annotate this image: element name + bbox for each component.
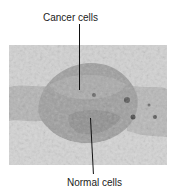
cancer-pointer-line bbox=[79, 24, 80, 90]
tissue-micrograph bbox=[9, 45, 167, 165]
tissue-image bbox=[9, 45, 167, 165]
cancer-cells-label: Cancer cells bbox=[43, 12, 98, 23]
normal-cells-label: Normal cells bbox=[67, 177, 122, 188]
